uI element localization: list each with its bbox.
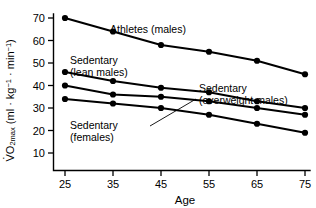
chart-figure: 70 60 50 40 30 20 10 25 35 45 55 65 75 A… xyxy=(0,0,316,208)
y-tick-label-70: 70 xyxy=(33,12,45,24)
annotation-sedentary-lean-males-line1: Sedentary xyxy=(70,54,119,66)
y-tick-label-20: 20 xyxy=(33,125,45,137)
x-tick-label-65: 65 xyxy=(251,178,263,190)
y-axis-title-wrap: VO2max (ml · kg−1 · min−1) xyxy=(0,0,18,208)
y-axis-title-exp-kg: −1 xyxy=(4,79,13,88)
data-point xyxy=(62,15,68,21)
y-tick-label-30: 30 xyxy=(33,102,45,114)
y-axis-title-o: O xyxy=(4,146,16,155)
data-point xyxy=(62,69,68,75)
data-point xyxy=(110,78,116,84)
y-axis-title-units-close: ) xyxy=(4,39,16,43)
data-point xyxy=(62,82,68,88)
y-tick-label-60: 60 xyxy=(33,35,45,47)
y-axis-title-units-open: (ml · kg xyxy=(4,88,16,128)
data-point xyxy=(206,49,212,55)
data-point xyxy=(254,58,260,64)
annotation-sedentary-females-line1: Sedentary xyxy=(70,119,119,131)
data-point xyxy=(158,105,164,111)
annotation-sedentary-lean-males-line2: (lean males) xyxy=(70,66,128,78)
y-tick-label-40: 40 xyxy=(33,80,45,92)
x-tick-label-25: 25 xyxy=(59,178,71,190)
x-tick-label-45: 45 xyxy=(155,178,167,190)
y-axis-title-units-mid: · min xyxy=(4,51,16,79)
data-point xyxy=(110,91,116,97)
y-axis-title-sub: 2max xyxy=(8,127,17,145)
y-axis-title-exp-min: −1 xyxy=(4,43,13,52)
data-point xyxy=(110,100,116,106)
y-tick-label-50: 50 xyxy=(33,57,45,69)
annotation-sedentary-overweight-males-line2: (overweight males) xyxy=(199,94,288,106)
x-axis-ticks: 25 35 45 55 65 75 xyxy=(59,171,311,191)
data-point xyxy=(254,121,260,127)
annotation-sedentary-overweight-males-line1: Sedentary xyxy=(199,82,248,94)
data-point xyxy=(302,112,308,118)
data-point xyxy=(62,96,68,102)
y-tick-label-10: 10 xyxy=(33,147,45,159)
data-point xyxy=(302,130,308,136)
y-axis-title: VO2max (ml · kg−1 · min−1) xyxy=(3,11,20,189)
data-point xyxy=(206,112,212,118)
vo2max-line-chart: 70 60 50 40 30 20 10 25 35 45 55 65 75 A… xyxy=(0,0,316,208)
data-point xyxy=(158,42,164,48)
x-tick-label-55: 55 xyxy=(203,178,215,190)
data-point xyxy=(158,85,164,91)
data-point xyxy=(302,105,308,111)
y-axis-ticks: 70 60 50 40 30 20 10 xyxy=(33,12,54,159)
annotation-athletes: Athletes (males) xyxy=(110,23,186,35)
annotation-sedentary-females-line2: (females) xyxy=(70,131,114,143)
x-axis-title: Age xyxy=(175,194,195,206)
data-point xyxy=(158,94,164,100)
axis-lines xyxy=(54,14,311,171)
y-axis-title-v: V xyxy=(4,154,16,161)
x-tick-label-35: 35 xyxy=(107,178,119,190)
x-tick-label-75: 75 xyxy=(299,178,311,190)
data-point xyxy=(302,71,308,77)
